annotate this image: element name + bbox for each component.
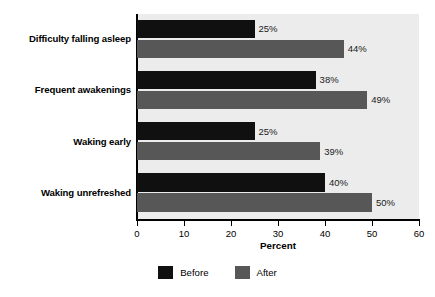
legend-item: Before	[158, 266, 208, 279]
x-tick-label: 40	[313, 228, 337, 239]
category-label: Waking unrefreshed	[0, 187, 131, 198]
category-label: Frequent awakenings	[0, 84, 131, 95]
category-label: Difficulty falling asleep	[0, 33, 131, 44]
bar-after	[137, 40, 344, 59]
bar-after	[137, 193, 372, 212]
bar-value-label: 50%	[376, 197, 395, 208]
x-tick-label: 10	[172, 228, 196, 239]
bar-value-label: 38%	[320, 74, 339, 85]
chart-legend: BeforeAfter	[0, 266, 435, 279]
category-label: Waking early	[0, 136, 131, 147]
legend-item: After	[235, 266, 277, 279]
bar-before	[137, 173, 325, 192]
x-tick-label: 30	[266, 228, 290, 239]
x-tick-mark	[231, 220, 232, 226]
x-tick-mark	[372, 220, 373, 226]
category-axis-labels: Difficulty falling asleepFrequent awaken…	[0, 14, 131, 218]
bar-value-label: 49%	[371, 94, 390, 105]
legend-swatch-icon	[158, 266, 173, 279]
x-tick-mark	[419, 220, 420, 226]
x-tick-label: 60	[407, 228, 431, 239]
bar-value-label: 40%	[329, 177, 348, 188]
x-tick-label: 50	[360, 228, 384, 239]
bar-before	[137, 122, 255, 141]
bar-value-label: 25%	[259, 23, 278, 34]
bar-value-label: 44%	[348, 43, 367, 54]
bar-value-label: 25%	[259, 126, 278, 137]
x-tick-mark	[278, 220, 279, 226]
x-tick-mark	[325, 220, 326, 226]
bar-before	[137, 20, 255, 39]
bar-after	[137, 91, 367, 110]
x-axis-title: Percent	[137, 240, 419, 252]
x-tick-label: 20	[219, 228, 243, 239]
bar-chart: Difficulty falling asleepFrequent awaken…	[0, 0, 435, 297]
x-tick-mark	[184, 220, 185, 226]
bar-before	[137, 71, 316, 90]
bar-after	[137, 142, 320, 161]
x-tick-mark	[137, 220, 138, 226]
bar-value-label: 39%	[324, 146, 343, 157]
x-tick-label: 0	[125, 228, 149, 239]
legend-label: After	[257, 267, 277, 278]
legend-label: Before	[180, 267, 208, 278]
legend-swatch-icon	[235, 266, 250, 279]
